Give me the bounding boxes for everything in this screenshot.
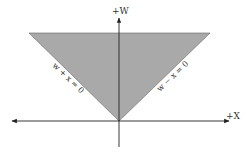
shaded-region <box>29 33 210 121</box>
diagram-canvas: +W +X w + x = 0 w − x = 0 <box>0 0 246 157</box>
horizontal-axis-label: +X <box>226 111 241 121</box>
vertical-axis-label: +W <box>112 6 130 16</box>
